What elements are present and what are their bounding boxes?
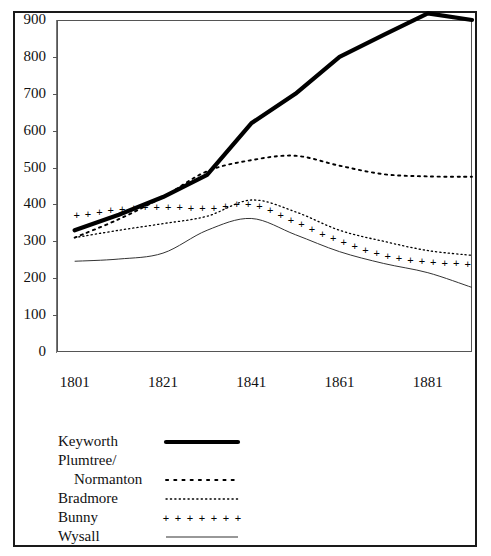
series-marker-plus: + — [73, 209, 79, 221]
series-marker-plus: + — [267, 204, 273, 216]
series-marker-plus: + — [85, 208, 91, 220]
series-marker-plus: + — [288, 214, 294, 226]
series-marker-plus: + — [373, 247, 379, 259]
series-marker-plus: + — [385, 250, 391, 262]
series-marker-plus: + — [211, 202, 217, 214]
series-line-keyworth — [75, 13, 472, 230]
legend-sample-layer: +++++++ — [58, 432, 288, 542]
series-marker-plus: + — [142, 201, 148, 213]
series-marker-plus: + — [245, 198, 251, 210]
series-marker-plus: + — [153, 201, 159, 213]
series-marker-plus: + — [453, 257, 459, 269]
series-marker-plus: + — [309, 223, 315, 235]
legend-marker-plus: + — [223, 512, 229, 524]
series-marker-plus: + — [176, 201, 182, 213]
legend-marker-plus: + — [163, 512, 169, 524]
legend-marker-plus: + — [187, 512, 193, 524]
series-marker-plus: + — [319, 228, 325, 240]
series-marker-plus: + — [119, 203, 125, 215]
series-marker-plus: + — [277, 209, 283, 221]
series-marker-plus: + — [256, 200, 262, 212]
series-marker-plus: + — [419, 255, 425, 267]
series-marker-plus: + — [407, 254, 413, 266]
series-marker-plus: + — [330, 232, 336, 244]
series-marker-plus: + — [362, 244, 368, 256]
chart-legend: KeyworthPlumtree/NormantonBradmoreBunnyW… — [58, 432, 288, 546]
series-marker-plus: + — [430, 256, 436, 268]
series-marker-plus: + — [351, 240, 357, 252]
series-marker-plus: + — [234, 198, 240, 210]
series-marker-plus: + — [108, 204, 114, 216]
series-marker-plus: + — [199, 202, 205, 214]
series-marker-plus: + — [188, 202, 194, 214]
legend-marker-plus: + — [175, 512, 181, 524]
series-marker-plus: + — [222, 200, 228, 212]
legend-marker-plus: + — [211, 512, 217, 524]
series-markers-bunny: ++++++++++++++++++++++++++++++++++++ — [73, 198, 471, 270]
series-marker-plus: + — [298, 218, 304, 230]
legend-marker-plus: + — [235, 512, 241, 524]
series-marker-plus: + — [341, 236, 347, 248]
series-marker-plus: + — [465, 258, 471, 270]
series-marker-plus: + — [165, 201, 171, 213]
series-marker-plus: + — [96, 206, 102, 218]
legend-sample-bunny: +++++++ — [163, 512, 241, 524]
series-marker-plus: + — [130, 202, 136, 214]
population-line-chart-figure: 0100200300400500600700800900 18011821184… — [0, 0, 491, 556]
series-marker-plus: + — [442, 257, 448, 269]
series-marker-plus: + — [396, 252, 402, 264]
legend-marker-plus: + — [199, 512, 205, 524]
